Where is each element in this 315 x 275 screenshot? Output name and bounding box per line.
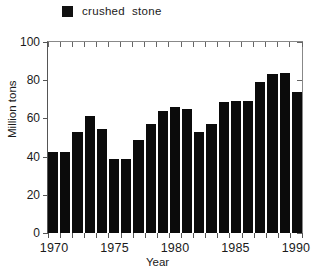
- x-axis: 19701975198019851990: [48, 233, 302, 239]
- x-axis-title: Year: [0, 256, 315, 268]
- bar: [219, 102, 229, 233]
- bar-chart: crushed stone 020406080100 1970197519801…: [0, 0, 315, 275]
- bar: [109, 159, 119, 233]
- x-axis-tick: [266, 233, 267, 238]
- y-axis-tick-label: 100: [20, 35, 40, 49]
- bar: [60, 152, 70, 233]
- x-axis-tick: [84, 233, 85, 238]
- legend-square-icon: [62, 6, 73, 17]
- chart-legend: crushed stone: [62, 2, 162, 20]
- x-axis-tick: [181, 233, 182, 238]
- bar: [48, 152, 58, 233]
- bar: [255, 82, 265, 233]
- bar: [146, 124, 156, 233]
- x-axis-tick: [290, 233, 291, 238]
- x-axis-tick-label: 1970: [40, 241, 69, 255]
- bar: [170, 107, 180, 233]
- x-axis-tick: [205, 233, 206, 238]
- legend-label: crushed stone: [82, 5, 162, 17]
- x-axis-tick: [145, 233, 146, 238]
- bar: [158, 111, 168, 233]
- bar: [85, 116, 95, 233]
- x-axis-tick: [242, 233, 243, 238]
- x-axis-tick: [121, 233, 122, 238]
- x-axis-tick: [60, 233, 61, 238]
- bar: [72, 132, 82, 233]
- bar: [182, 109, 192, 233]
- bar: [267, 74, 277, 233]
- bar: [280, 73, 290, 233]
- bar: [194, 132, 204, 233]
- x-axis-tick: [108, 233, 109, 238]
- y-axis-tick-label: 80: [27, 73, 40, 87]
- x-axis-tick: [254, 233, 255, 238]
- plot-area: 020406080100 19701975198019851990: [48, 42, 302, 233]
- x-axis-tick-label: 1985: [221, 241, 250, 255]
- bar: [133, 140, 143, 233]
- bar-series: [48, 42, 302, 233]
- x-axis-tick: [133, 233, 134, 238]
- x-axis-tick: [278, 233, 279, 238]
- x-axis-tick: [48, 233, 49, 238]
- x-axis-tick-label: 1975: [100, 241, 129, 255]
- x-axis-tick: [169, 233, 170, 238]
- x-axis-tick: [229, 233, 230, 238]
- x-axis-tick-label: 1980: [161, 241, 190, 255]
- x-axis-tick: [96, 233, 97, 238]
- bar: [97, 129, 107, 233]
- x-axis-tick: [193, 233, 194, 238]
- y-axis-tick-label: 40: [27, 150, 40, 164]
- y-axis-title: Million tons: [6, 80, 18, 138]
- bar: [292, 92, 302, 233]
- bar: [206, 124, 216, 233]
- bar: [121, 159, 131, 233]
- y-axis-tick-label: 20: [27, 188, 40, 202]
- x-axis-tick: [302, 233, 303, 238]
- x-axis-tick-label: 1990: [282, 241, 311, 255]
- y-axis-tick-label: 60: [27, 111, 40, 125]
- x-axis-tick: [217, 233, 218, 238]
- bar: [231, 101, 241, 233]
- bar: [243, 101, 253, 233]
- x-axis-tick: [157, 233, 158, 238]
- y-axis-tick-label: 0: [33, 226, 40, 240]
- x-axis-tick: [72, 233, 73, 238]
